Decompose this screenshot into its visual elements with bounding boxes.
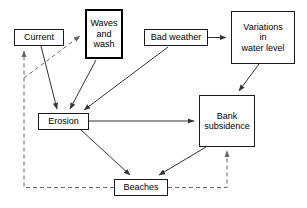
node-beaches-label: Beaches xyxy=(121,182,160,193)
node-bad-weather-label: Bad weather xyxy=(149,32,204,43)
edge-beaches-to-bank-subsidence xyxy=(168,151,227,188)
node-waves-and-wash-label: Waves and wash xyxy=(88,18,119,50)
diagram-canvas: Current Waves and wash Bad weather Varia… xyxy=(0,0,307,208)
node-beaches[interactable]: Beaches xyxy=(114,179,168,196)
node-erosion-label: Erosion xyxy=(46,116,81,127)
edge-variations-to-bank-subsidence xyxy=(239,64,259,91)
edge-bank-subsidence-to-beaches xyxy=(159,147,206,175)
edge-erosion-to-beaches xyxy=(81,130,130,175)
node-variations-in-water-level[interactable]: Variations in water level xyxy=(231,11,295,64)
node-current[interactable]: Current xyxy=(14,29,64,46)
edge-waves-to-erosion xyxy=(70,60,96,109)
node-current-label: Current xyxy=(22,32,56,43)
node-bank-subsidence-label: Bank subsidence xyxy=(202,111,252,132)
node-erosion[interactable]: Erosion xyxy=(38,113,89,130)
node-bank-subsidence[interactable]: Bank subsidence xyxy=(199,95,255,147)
node-variations-in-water-level-label: Variations in water level xyxy=(239,22,286,54)
node-waves-and-wash[interactable]: Waves and wash xyxy=(85,9,123,59)
node-bad-weather[interactable]: Bad weather xyxy=(144,29,208,46)
